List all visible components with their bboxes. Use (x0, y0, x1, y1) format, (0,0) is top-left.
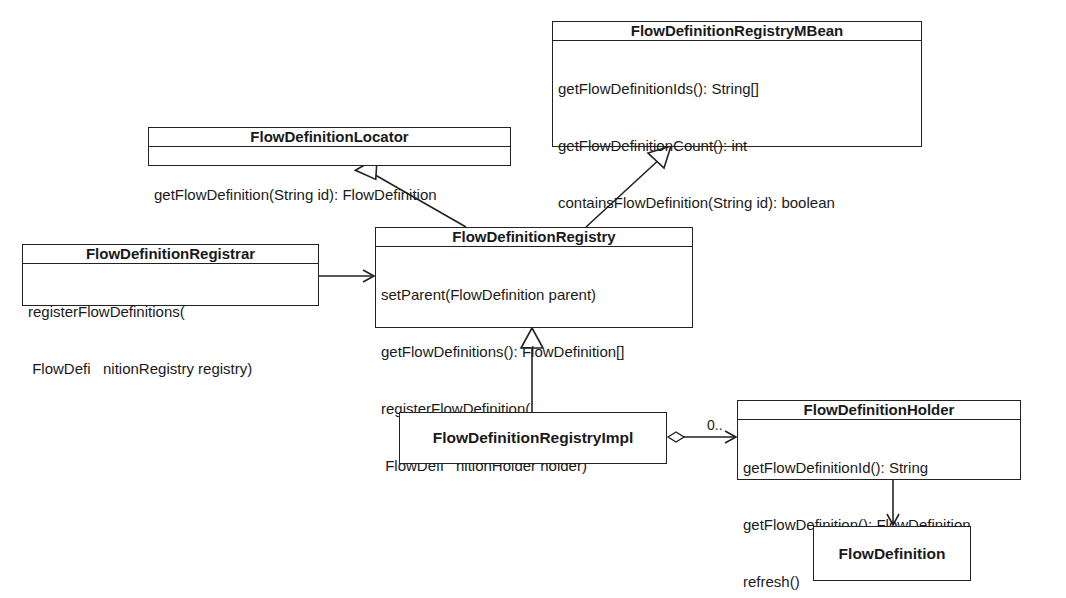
class-flow-definition-locator[interactable]: FlowDefinitionLocator getFlowDefinition(… (148, 127, 511, 166)
operation: setParent(FlowDefinition parent) (381, 285, 692, 304)
class-flow-definition-holder[interactable]: FlowDefinitionHolder getFlowDefinitionId… (737, 400, 1021, 480)
class-flow-definition-registrar[interactable]: FlowDefinitionRegistrar registerFlowDefi… (22, 244, 319, 306)
class-name: FlowDefinitionRegistryImpl (433, 429, 634, 447)
operation: getFlowDefinitions(): FlowDefinition[] (381, 342, 692, 361)
class-name: FlowDefinitionRegistrar (23, 245, 318, 264)
class-name: FlowDefinitionRegistry (376, 228, 692, 247)
operation: getFlowDefinition(String id): FlowDefini… (154, 185, 510, 204)
class-flow-definition-registry-mbean[interactable]: FlowDefinitionRegistryMBean getFlowDefin… (552, 21, 922, 147)
operations-list: registerFlowDefinitions( FlowDefi nition… (23, 264, 318, 416)
class-name: FlowDefinitionLocator (149, 128, 510, 147)
dependency-registrar-registry (319, 270, 374, 282)
operations-list: setParent(FlowDefinition parent) getFlow… (376, 247, 692, 513)
operation: getFlowDefinitionId(): String (743, 458, 1020, 477)
class-flow-definition-registry-impl[interactable]: FlowDefinitionRegistryImpl (399, 412, 667, 464)
operation: containsFlowDefinition(String id): boole… (558, 193, 921, 212)
class-name: FlowDefinitionHolder (738, 401, 1020, 420)
operation: FlowDefi nitionRegistry registry) (28, 359, 318, 378)
class-name: FlowDefinitionRegistryMBean (553, 22, 921, 41)
operation: getFlowDefinitionCount(): int (558, 136, 921, 155)
class-flow-definition-registry[interactable]: FlowDefinitionRegistry setParent(FlowDef… (375, 227, 693, 328)
operation: getFlowDefinitionIds(): String[] (558, 79, 921, 98)
class-flow-definition[interactable]: FlowDefinition (813, 526, 971, 581)
multiplicity-label: 0.. (707, 417, 723, 433)
class-name: FlowDefinition (839, 545, 946, 563)
operation: registerFlowDefinitions( (28, 302, 318, 321)
